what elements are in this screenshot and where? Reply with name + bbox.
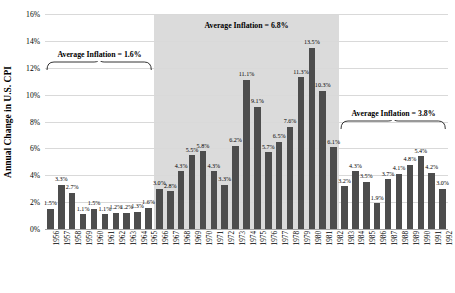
x-axis-tick-label: 1958 [75, 231, 83, 245]
bar-value-label: 1.6% [142, 199, 155, 205]
bar[interactable] [91, 209, 98, 229]
bar-value-label: 4.1% [393, 165, 406, 171]
bar-value-label: 5.7% [262, 144, 275, 150]
plot-area: 0%2%4%6%8%10%12%14%16% 1.5%3.3%2.7%1.1%1… [45, 14, 448, 229]
bar-value-label: 1.9% [371, 195, 384, 201]
bar[interactable] [363, 182, 370, 229]
x-axis-tick-label: 1967 [173, 231, 181, 245]
bar[interactable] [232, 146, 239, 229]
x-axis-tick-label: 1964 [141, 231, 149, 245]
bar-value-label: 1.1% [77, 206, 90, 212]
x-axis-tick-label: 1985 [369, 231, 377, 245]
bar[interactable] [113, 213, 120, 229]
y-axis-tick-label: 8% [30, 117, 40, 126]
x-axis-tick-label: 1977 [282, 231, 290, 245]
x-axis-tick-label: 1969 [195, 231, 203, 245]
bar-value-label: 6.2% [229, 137, 242, 143]
bar[interactable] [418, 156, 425, 229]
bar[interactable] [396, 174, 403, 229]
y-axis-title-label: Annual Change in U.S. CPI [3, 66, 13, 178]
bar[interactable] [167, 191, 174, 229]
x-axis-tick-label: 1976 [271, 231, 279, 245]
bar-value-label: 4.2% [425, 164, 438, 170]
bar-value-label: 6.1% [327, 139, 340, 145]
bar-value-label: 2.7% [66, 184, 79, 190]
x-axis-tick-label: 1992 [446, 231, 454, 245]
bar[interactable] [276, 142, 283, 229]
bar-value-label: 7.6% [284, 118, 297, 124]
bar-value-label: 1.5% [44, 200, 57, 206]
x-axis-tick-label: 1981 [326, 231, 334, 245]
bar[interactable] [200, 151, 207, 229]
bar[interactable] [254, 107, 261, 229]
x-axis-tick-label: 1982 [337, 231, 345, 245]
bar[interactable] [211, 171, 218, 229]
bar-value-label: 3.3% [218, 176, 231, 182]
bar[interactable] [156, 189, 163, 229]
x-axis-tick-label: 1972 [228, 231, 236, 245]
bar[interactable] [102, 214, 109, 229]
bar[interactable] [189, 155, 196, 229]
x-axis-tick-label: 1959 [86, 231, 94, 245]
bar[interactable] [385, 179, 392, 229]
bar-value-label: 2.8% [164, 183, 177, 189]
bar[interactable] [374, 203, 381, 229]
bracket-icon [46, 61, 152, 72]
bar-value-label: 4.3% [207, 163, 220, 169]
bar[interactable] [352, 171, 359, 229]
x-axis-tick-label: 1962 [119, 231, 127, 245]
bar[interactable] [145, 208, 152, 230]
bar[interactable] [243, 80, 250, 229]
bar[interactable] [319, 91, 326, 229]
x-axis-tick-label: 1989 [413, 231, 421, 245]
x-axis-tick-label: 1968 [184, 231, 192, 245]
average-inflation-annotation: Average Inflation = 1.6% [57, 50, 141, 59]
bar[interactable] [298, 77, 305, 229]
x-axis-tick-label: 1991 [435, 231, 443, 245]
bar[interactable] [80, 214, 87, 229]
bar[interactable] [407, 165, 414, 230]
bar[interactable] [47, 209, 54, 229]
bar[interactable] [134, 212, 141, 229]
bar-value-label: 13.5% [304, 39, 320, 45]
bar-value-label: 3.3% [55, 176, 68, 182]
x-axis-labels: 1956195719581959196019611962196319641965… [45, 231, 448, 291]
x-axis-tick-label: 1974 [250, 231, 258, 245]
x-axis-tick-label: 1970 [206, 231, 214, 245]
x-axis-tick-label: 1963 [130, 231, 138, 245]
bar[interactable] [69, 193, 76, 229]
y-axis-tick-label: 0% [30, 225, 40, 234]
bar-value-label: 3.5% [360, 173, 373, 179]
bar[interactable] [221, 185, 228, 229]
bar[interactable] [439, 189, 446, 229]
y-axis-tick-label: 12% [26, 63, 40, 72]
bar[interactable] [265, 152, 272, 229]
x-axis-tick-label: 1965 [151, 231, 159, 245]
x-axis-tick-label: 1986 [380, 231, 388, 245]
bar[interactable] [178, 171, 185, 229]
bar[interactable] [309, 48, 316, 229]
bar-value-label: 6.5% [273, 133, 286, 139]
average-inflation-annotation: Average Inflation = 6.8% [205, 21, 289, 30]
bar[interactable] [428, 173, 435, 229]
bar[interactable] [341, 186, 348, 229]
x-axis-tick-label: 1961 [108, 231, 116, 245]
x-axis-tick-label: 1984 [358, 231, 366, 245]
x-axis-tick-label: 1971 [217, 231, 225, 245]
x-axis-tick-label: 1979 [304, 231, 312, 245]
bar[interactable] [330, 147, 337, 229]
y-axis-tick-label: 4% [30, 171, 40, 180]
bar[interactable] [287, 127, 294, 229]
bar[interactable] [58, 185, 65, 229]
x-axis-tick-label: 1987 [391, 231, 399, 245]
x-axis-tick-label: 1966 [162, 231, 170, 245]
x-axis-tick-label: 1990 [424, 231, 432, 245]
x-axis-tick-label: 1957 [64, 231, 72, 245]
x-axis-tick-label: 1975 [260, 231, 268, 245]
average-inflation-annotation: Average Inflation = 3.8% [352, 109, 436, 118]
bar-value-label: 10.3% [315, 82, 331, 88]
y-axis-tick-label: 6% [30, 144, 40, 153]
bar-value-label: 11.1% [239, 71, 255, 77]
y-axis-tick-label: 14% [26, 36, 40, 45]
bar[interactable] [123, 213, 130, 229]
